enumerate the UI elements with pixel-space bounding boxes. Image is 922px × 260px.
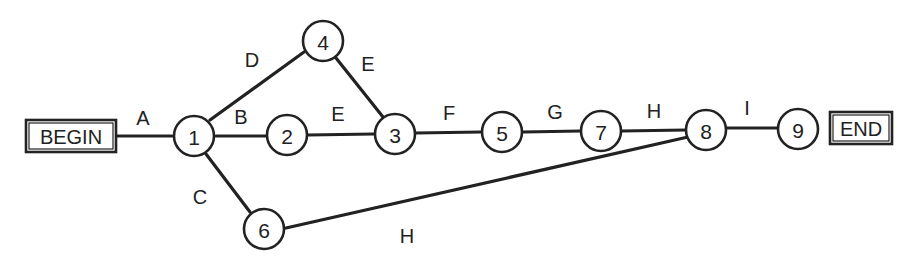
begin-terminal: BEGIN: [26, 120, 116, 152]
node-4: 4: [303, 21, 343, 61]
edge-label-i: I: [744, 97, 750, 119]
edge-label-a: A: [136, 107, 150, 129]
end-label: END: [840, 118, 882, 140]
edge-5-7: [523, 131, 581, 132]
edge-3-5: [416, 132, 481, 133]
svg-text:3: 3: [389, 124, 401, 147]
node-5: 5: [482, 112, 522, 152]
edge-label-e-lower: E: [331, 103, 344, 125]
node-7: 7: [581, 111, 621, 151]
svg-text:7: 7: [595, 121, 607, 144]
node-2: 2: [267, 115, 307, 155]
edge-label-e-upper: E: [361, 53, 374, 75]
edge-label-b: B: [234, 106, 247, 128]
edge-2-3: [308, 134, 374, 135]
edge-6-8: [286, 137, 688, 228]
edge-label-g: G: [547, 101, 563, 123]
node-8: 8: [686, 110, 726, 150]
node-6: 6: [244, 209, 284, 249]
network-diagram: A B C D E E F G H H I BEGIN END 1 2 3 4 …: [0, 0, 922, 260]
svg-text:1: 1: [188, 126, 200, 149]
svg-text:8: 8: [700, 120, 712, 143]
svg-text:4: 4: [317, 31, 329, 54]
begin-label: BEGIN: [40, 126, 102, 148]
end-terminal: END: [830, 112, 892, 144]
svg-text:9: 9: [792, 119, 804, 142]
edge-label-d: D: [245, 49, 259, 71]
node-9: 9: [778, 109, 818, 149]
svg-text:5: 5: [496, 122, 508, 145]
edge-1-6: [206, 154, 250, 212]
edge-label-h-upper: H: [647, 100, 661, 122]
edge-label-h-lower: H: [400, 225, 414, 247]
node-1: 1: [174, 116, 214, 156]
edge-label-f: F: [443, 102, 455, 124]
edge-label-c: C: [193, 186, 207, 208]
edge-7-8: [622, 130, 686, 131]
node-3: 3: [375, 114, 415, 154]
svg-text:6: 6: [258, 219, 270, 242]
svg-text:2: 2: [281, 125, 293, 148]
